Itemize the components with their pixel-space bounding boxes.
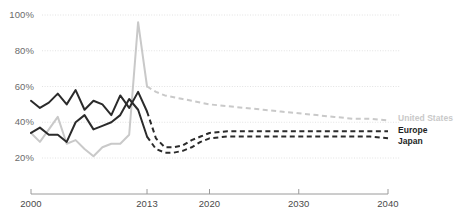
x-tick-label: 2013	[127, 198, 167, 209]
y-tick-label: 100%	[0, 9, 34, 20]
gridlines	[42, 15, 400, 158]
x-tick-label: 2040	[368, 198, 408, 209]
y-tick-label: 40%	[0, 116, 34, 127]
series-line-forecast	[147, 87, 388, 121]
plot-series-group	[31, 22, 388, 156]
y-tick-label: 60%	[0, 81, 34, 92]
series-line-forecast	[147, 112, 388, 148]
x-tick-label: 2030	[279, 198, 319, 209]
legend-item-europe[interactable]: Europe	[398, 125, 428, 135]
y-tick-label: 80%	[0, 45, 34, 56]
legend-item-japan[interactable]: Japan	[398, 136, 423, 146]
chart-canvas	[0, 0, 456, 224]
series-line-historical	[31, 90, 147, 115]
x-axis	[31, 189, 388, 194]
legend-item-united-states[interactable]: United States	[398, 113, 453, 123]
series-line-historical	[31, 22, 147, 156]
x-tick-label: 2020	[190, 198, 230, 209]
line-chart: 20%40%60%80%100% 20002013202020302040 Un…	[0, 0, 456, 224]
y-tick-label: 20%	[0, 152, 34, 163]
x-tick-label: 2000	[11, 198, 51, 209]
